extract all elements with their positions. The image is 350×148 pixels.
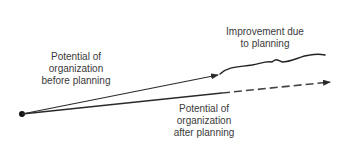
label-before-line-3: before planning: [26, 75, 126, 87]
label-improvement-line-1: Improvement due: [215, 26, 315, 38]
label-before-line-2: organization: [26, 63, 126, 75]
label-after-line-1: Potential of: [154, 103, 254, 115]
label-after-planning: Potential of organization after planning: [154, 103, 254, 139]
label-improvement: Improvement due to planning: [215, 26, 315, 50]
label-before-line-1: Potential of: [26, 51, 126, 63]
label-after-line-2: organization: [154, 115, 254, 127]
after-planning-dashed-arrow: [222, 82, 330, 93]
label-after-line-3: after planning: [154, 127, 254, 139]
label-improvement-line-2: to planning: [215, 38, 315, 50]
improvement-wavy-line: [220, 54, 325, 74]
label-before-planning: Potential of organization before plannin…: [26, 51, 126, 87]
